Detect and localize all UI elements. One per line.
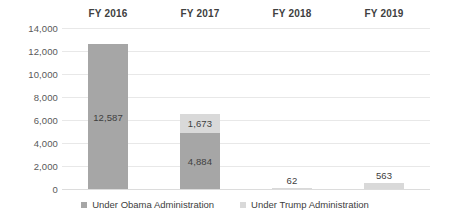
- legend-label-trump: Under Trump Administration: [251, 199, 369, 210]
- bar-value-label: 12,587: [88, 112, 128, 123]
- bar-value-label: 563: [364, 170, 404, 181]
- bar-value-label: 4,884: [180, 156, 220, 167]
- y-tick-label-14000: 14,000: [4, 23, 58, 34]
- y-tick-label-6000: 6,000: [4, 115, 58, 126]
- legend-item-trump: Under Trump Administration: [240, 199, 369, 210]
- bar-segment[interactable]: [364, 183, 404, 189]
- bar-group[interactable]: 563: [364, 28, 404, 189]
- plot-area: 12,5874,8841,67362563: [62, 28, 430, 189]
- bar-segment[interactable]: [272, 188, 312, 189]
- y-tick-label-12000: 12,000: [4, 46, 58, 57]
- bar-group[interactable]: 4,8841,673: [180, 28, 220, 189]
- chart-legend: Under Obama Administration Under Trump A…: [0, 199, 450, 210]
- category-label-fy2016: FY 2016: [58, 8, 158, 19]
- category-label-fy2017: FY 2017: [150, 8, 250, 19]
- y-axis: 14,00012,00010,0008,0006,0004,0002,0000: [0, 0, 58, 224]
- y-tick-label-8000: 8,000: [4, 92, 58, 103]
- category-label-fy2019: FY 2019: [334, 8, 434, 19]
- y-tick-label-2000: 2,000: [4, 161, 58, 172]
- legend-item-obama: Under Obama Administration: [81, 199, 214, 210]
- bar-value-label: 62: [272, 175, 312, 186]
- y-tick-label-10000: 10,000: [4, 69, 58, 80]
- stacked-bar-chart: FY 2016 FY 2017 FY 2018 FY 2019 14,00012…: [0, 0, 450, 224]
- gridline-0: [62, 189, 430, 190]
- y-tick-label-4000: 4,000: [4, 138, 58, 149]
- category-label-fy2018: FY 2018: [242, 8, 342, 19]
- legend-label-obama: Under Obama Administration: [92, 199, 214, 210]
- bar-group[interactable]: 12,587: [88, 28, 128, 189]
- legend-swatch-obama: [81, 202, 87, 208]
- bar-value-label: 1,673: [180, 118, 220, 129]
- y-tick-label-0: 0: [4, 184, 58, 195]
- bar-group[interactable]: 62: [272, 28, 312, 189]
- legend-swatch-trump: [240, 202, 246, 208]
